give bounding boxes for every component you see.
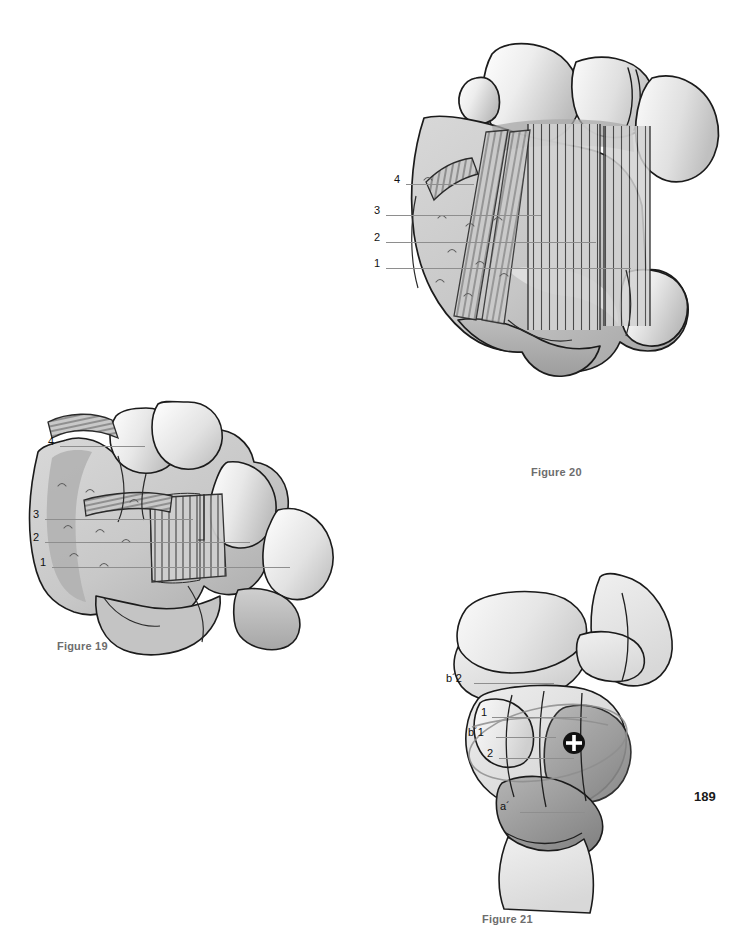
fig21-leader-2 [499, 758, 574, 759]
fig19-label-3: 3 [33, 508, 39, 520]
fig21-label-b2: b´2 [446, 672, 462, 684]
fig20-label-2: 2 [374, 231, 380, 243]
fig21-label-2: 2 [487, 747, 493, 759]
fig19-label-1: 1 [40, 556, 46, 568]
fig20-leader-4 [406, 184, 474, 185]
fig20-label-3: 3 [374, 204, 380, 216]
fig20-label-4: 4 [394, 173, 400, 185]
fig19-label-2: 2 [33, 531, 39, 543]
fig19-leader-3 [45, 519, 193, 520]
fig20-leader-1 [386, 268, 631, 269]
axis-center-marker-group [563, 732, 585, 754]
fig21-label-a: a´ [500, 800, 510, 812]
page-number: 189 [694, 789, 716, 804]
atlas-page: Figure 19 4 3 2 1 [0, 0, 739, 939]
fig21-leader-b1 [496, 737, 556, 738]
figure-19-illustration [0, 390, 380, 670]
fig20-leader-3 [386, 215, 541, 216]
figure-20-caption: Figure 20 [531, 466, 582, 478]
fig21-label-1: 1 [481, 706, 487, 718]
figure-21-caption: Figure 21 [482, 913, 533, 925]
fig21-leader-b2 [474, 683, 554, 684]
figure-20-illustration [380, 20, 725, 450]
figure-19-caption: Figure 19 [57, 640, 108, 652]
fig20-label-1: 1 [374, 257, 380, 269]
fig20-leader-2 [386, 242, 596, 243]
fig21-label-b1: b´1 [468, 726, 484, 738]
fig19-leader-4 [60, 446, 145, 447]
fig21-leader-1 [492, 717, 587, 718]
fig19-leader-1 [52, 567, 290, 568]
fig21-leader-a [520, 812, 585, 813]
fig19-leader-2 [45, 542, 250, 543]
fig19-label-4: 4 [48, 435, 54, 447]
figure-21-illustration [440, 575, 700, 915]
